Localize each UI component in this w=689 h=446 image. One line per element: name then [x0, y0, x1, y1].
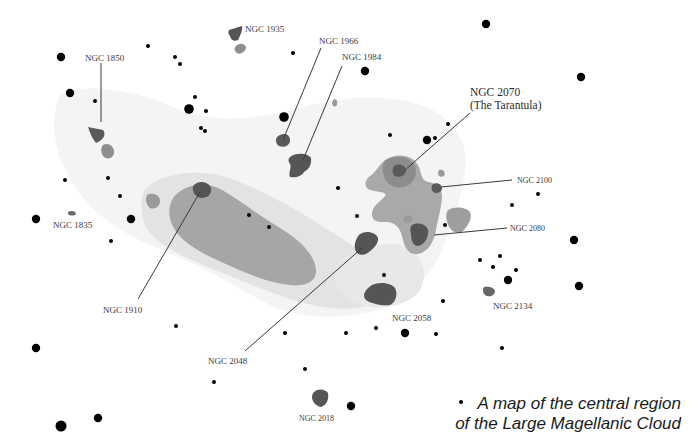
star [388, 133, 392, 137]
star [382, 273, 386, 277]
star [267, 225, 271, 229]
star [56, 421, 67, 432]
star [178, 62, 182, 66]
caption-line-2: of the Large Magellanic Cloud [455, 414, 681, 434]
star [118, 194, 122, 198]
star [109, 239, 113, 243]
label-ngc1850: NGC 1850 [85, 53, 125, 63]
cluster-ngc1835 [68, 211, 76, 216]
label-ngc2100: NGC 2100 [517, 176, 552, 185]
star [446, 122, 450, 126]
star [204, 109, 208, 113]
label-ngc2080: NGC 2080 [510, 224, 545, 233]
star [433, 136, 437, 140]
star [575, 282, 583, 290]
star [491, 265, 495, 269]
star [498, 254, 502, 258]
star [510, 203, 514, 207]
cluster-ngc1935 [228, 26, 242, 41]
caption-line-1: A map of the central region [455, 394, 681, 414]
star [504, 276, 512, 284]
star [146, 44, 150, 48]
label-ngc2134: NGC 2134 [493, 301, 533, 311]
star [336, 186, 340, 190]
star [347, 402, 355, 410]
lmc-map: NGC 1935 NGC 1966 NGC 1984 NGC 1850 NGC … [0, 0, 689, 446]
star [184, 104, 194, 114]
star [374, 326, 378, 330]
star [291, 51, 295, 55]
star [174, 324, 178, 328]
star [344, 331, 348, 335]
star [355, 214, 359, 218]
star [283, 331, 287, 335]
star [303, 367, 307, 371]
star [279, 112, 289, 122]
label-ngc2070-alias: (The Tarantula) [470, 99, 542, 112]
star [478, 258, 482, 262]
star [173, 55, 177, 59]
star [193, 95, 197, 99]
star [66, 89, 74, 97]
label-ngc1835: NGC 1835 [53, 220, 93, 230]
map-caption: A map of the central region of the Large… [455, 394, 681, 434]
star [57, 53, 65, 61]
star [203, 129, 207, 133]
label-ngc2018: NGC 2018 [299, 414, 334, 423]
star [482, 20, 490, 28]
cluster-ngc2018 [312, 389, 328, 407]
star [127, 215, 135, 223]
label-ngc1984: NGC 1984 [342, 52, 382, 62]
star [536, 192, 540, 196]
star [106, 176, 110, 180]
label-ngc2048: NGC 2048 [208, 356, 248, 366]
star [247, 213, 251, 217]
star [570, 236, 578, 244]
label-ngc1966: NGC 1966 [319, 36, 359, 46]
star [443, 223, 447, 227]
label-ngc2070: NGC 2070 [470, 86, 520, 98]
star [441, 299, 445, 303]
star [423, 136, 431, 144]
star [500, 346, 504, 350]
cluster-ngc2134 [483, 287, 495, 297]
star [401, 329, 409, 337]
mid-patch-1984-small [332, 99, 337, 106]
star [32, 215, 40, 223]
star [63, 178, 67, 182]
label-ngc1935: NGC 1935 [245, 24, 285, 34]
star [32, 344, 40, 352]
star [212, 380, 216, 384]
star [577, 73, 585, 81]
star [93, 99, 97, 103]
mid-patch-1935 [235, 44, 246, 54]
label-ngc2058: NGC 2058 [392, 313, 432, 323]
star [434, 332, 438, 336]
star [361, 67, 369, 75]
star [199, 126, 203, 130]
star [94, 414, 102, 422]
star [514, 268, 518, 272]
label-ngc1910: NGC 1910 [103, 305, 143, 315]
